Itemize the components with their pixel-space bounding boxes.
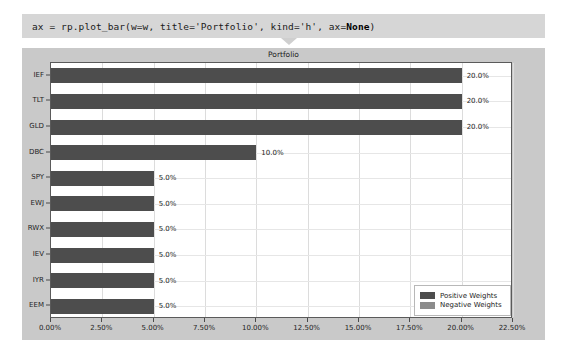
y-tick-mark (46, 177, 50, 178)
bar-value-label-ewj: 5.0% (159, 200, 177, 208)
bar-ewj (51, 196, 154, 211)
y-tick-label-eem: EEM (29, 301, 44, 309)
y-tick-label-ewj: EWJ (31, 199, 44, 207)
x-tick-label-4: 10.00% (242, 324, 269, 332)
x-tick-mark (409, 318, 410, 322)
x-tick-mark (307, 318, 308, 322)
bar-dbc (51, 145, 256, 160)
y-tick-mark (46, 279, 50, 280)
x-tick-label-2: 5.00% (142, 324, 164, 332)
y-tick-mark (46, 151, 50, 152)
x-tick-label-6: 15.00% (345, 324, 372, 332)
bar-value-label-iyr: 5.0% (159, 277, 177, 285)
legend-swatch-icon (420, 292, 435, 299)
code-cell-text: ax = rp.plot_bar(w=w, title='Portfolio',… (22, 21, 375, 32)
y-tick-label-iev: IEV (33, 250, 44, 258)
y-tick-label-spy: SPY (31, 173, 44, 181)
x-tick-label-8: 20.00% (447, 324, 474, 332)
chart-plot-area: 20.0%20.0%20.0%10.0%5.0%5.0%5.0%5.0%5.0%… (50, 62, 512, 318)
x-tick-label-0: 0.00% (39, 324, 61, 332)
notebook-code-cell[interactable]: ax = rp.plot_bar(w=w, title='Portfolio',… (22, 14, 545, 38)
bar-value-label-rwx: 5.0% (159, 225, 177, 233)
bar-value-label-spy: 5.0% (159, 174, 177, 182)
y-tick-mark (46, 305, 50, 306)
legend-label: Negative Weights (440, 301, 502, 309)
bar-rwx (51, 222, 154, 237)
bar-value-label-ief: 20.0% (467, 72, 489, 80)
y-tick-label-rwx: RWX (28, 224, 44, 232)
matplotlib-figure: Portfolio 20.0%20.0%20.0%10.0%5.0%5.0%5.… (22, 48, 545, 340)
y-tick-mark (46, 228, 50, 229)
x-tick-label-5: 12.50% (293, 324, 320, 332)
x-tick-mark (461, 318, 462, 322)
bar-iev (51, 248, 154, 263)
x-tick-label-9: 22.50% (499, 324, 526, 332)
bar-value-label-tlt: 20.0% (467, 97, 489, 105)
bar-value-label-gld: 20.0% (467, 123, 489, 131)
x-tick-mark (153, 318, 154, 322)
x-tick-label-1: 2.50% (90, 324, 112, 332)
bar-iyr (51, 273, 154, 288)
y-tick-label-gld: GLD (29, 122, 44, 130)
bar-value-label-dbc: 10.0% (261, 149, 283, 157)
y-tick-label-iyr: IYR (33, 276, 44, 284)
y-tick-label-dbc: DBC (29, 148, 44, 156)
legend-item-positive: Positive Weights (420, 292, 505, 300)
chevron-down-icon (281, 38, 297, 45)
y-tick-mark (46, 254, 50, 255)
bar-ief (51, 68, 462, 83)
x-tick-mark (101, 318, 102, 322)
y-tick-label-tlt: TLT (33, 96, 45, 104)
x-tick-mark (255, 318, 256, 322)
x-tick-mark (358, 318, 359, 322)
x-tick-label-3: 7.50% (193, 324, 215, 332)
legend-item-negative: Negative Weights (420, 301, 505, 309)
x-tick-mark (512, 318, 513, 322)
y-tick-label-ief: IEF (33, 71, 44, 79)
y-tick-mark (46, 126, 50, 127)
code-keyword-none: None (346, 21, 369, 32)
legend-label: Positive Weights (440, 292, 497, 300)
chart-title: Portfolio (22, 50, 545, 59)
x-tick-mark (50, 318, 51, 322)
bar-value-label-iev: 5.0% (159, 251, 177, 259)
x-tick-mark (204, 318, 205, 322)
bar-value-label-eem: 5.0% (159, 302, 177, 310)
y-tick-mark (46, 100, 50, 101)
y-tick-mark (46, 74, 50, 75)
x-tick-label-7: 17.50% (396, 324, 423, 332)
bar-tlt (51, 94, 462, 109)
legend-swatch-icon (420, 302, 435, 309)
bar-gld (51, 120, 462, 135)
y-tick-mark (46, 202, 50, 203)
bar-eem (51, 299, 154, 314)
bar-spy (51, 171, 154, 186)
chart-legend: Positive WeightsNegative Weights (414, 285, 511, 316)
vertical-gridline (513, 63, 514, 317)
